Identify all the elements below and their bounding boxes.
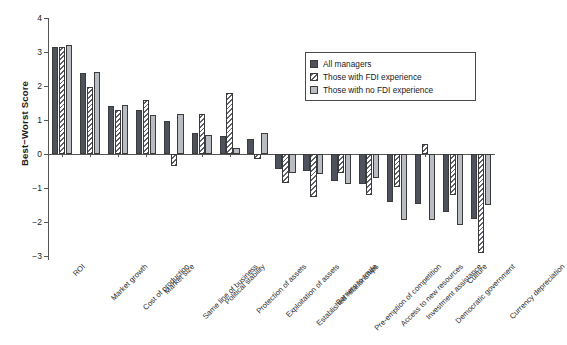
y-tick-label: −1 — [32, 183, 42, 193]
bar — [331, 154, 337, 181]
bar — [310, 154, 316, 197]
bar — [415, 154, 421, 204]
legend-label: All managers — [323, 59, 371, 69]
bar — [422, 144, 428, 154]
bar — [443, 154, 449, 212]
plot-area: 43210−1−2−3 — [48, 14, 495, 260]
legend-swatch-icon — [310, 73, 318, 81]
x-axis-label: Market growth — [109, 262, 149, 302]
y-tick-label: 1 — [37, 115, 42, 125]
bar — [87, 87, 93, 154]
bar — [387, 154, 393, 202]
bar — [171, 154, 177, 166]
y-tick-label: 3 — [37, 47, 42, 57]
bar — [80, 73, 86, 154]
legend-swatch-icon — [310, 60, 318, 68]
bar — [457, 154, 463, 225]
y-tick-label: 4 — [37, 13, 42, 23]
legend-entry: Those with no FDI experience — [310, 83, 470, 96]
bar — [485, 154, 491, 205]
bar-group — [48, 14, 495, 260]
bar — [450, 154, 456, 195]
y-axis-title: Best−Worst Score — [19, 54, 30, 194]
y-tick-label: 0 — [37, 149, 42, 159]
bar — [164, 121, 170, 154]
x-axis-label: Culture — [465, 262, 489, 286]
bar — [136, 110, 142, 154]
x-axis-label: Barriers to trade — [334, 262, 379, 307]
bar — [199, 114, 205, 154]
legend-label: Those with FDI experience — [323, 72, 422, 82]
bar — [122, 105, 128, 154]
bar — [303, 154, 309, 171]
x-axis-label-group: ROIMarket growthCost of productionMarket… — [48, 262, 495, 345]
bar — [471, 154, 477, 219]
bar — [108, 106, 114, 154]
y-tick-label: −2 — [32, 217, 42, 227]
legend-swatch-icon — [310, 86, 318, 94]
bar — [478, 154, 484, 253]
bar — [275, 154, 281, 169]
bar — [115, 110, 121, 154]
bar — [429, 154, 435, 220]
bar — [282, 154, 288, 183]
x-axis-label: Political stability — [222, 262, 266, 306]
bar — [317, 154, 323, 174]
bar — [247, 139, 253, 154]
legend: All managersThose with FDI experienceTho… — [305, 52, 476, 101]
bar — [289, 154, 295, 173]
legend-entry: Those with FDI experience — [310, 70, 470, 83]
bar — [59, 47, 65, 154]
bar — [366, 154, 372, 195]
bar — [150, 115, 156, 154]
bar — [205, 135, 211, 154]
legend-entry: All managers — [310, 57, 470, 70]
bar — [394, 154, 400, 187]
bar — [52, 47, 58, 154]
bar — [177, 114, 183, 154]
y-tick-label: −3 — [32, 251, 42, 261]
bar — [220, 136, 226, 154]
bar — [233, 148, 239, 154]
x-axis-label: ROI — [71, 262, 87, 278]
y-tick-label: 2 — [37, 81, 42, 91]
bar — [338, 154, 344, 173]
x-axis-label: Currency depreciation — [508, 262, 567, 321]
bar — [401, 154, 407, 220]
bar — [192, 133, 198, 154]
bar — [359, 154, 365, 184]
bar — [66, 45, 72, 154]
legend-label: Those with no FDI experience — [323, 85, 433, 95]
bar — [226, 93, 232, 154]
bar — [143, 100, 149, 154]
bar — [254, 154, 260, 159]
bar — [94, 72, 100, 154]
bar — [345, 154, 351, 184]
bar — [373, 154, 379, 178]
bar — [261, 133, 267, 154]
